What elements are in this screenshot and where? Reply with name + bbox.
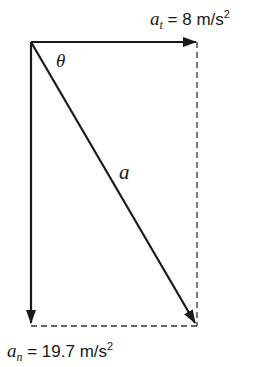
resultant-label: a: [119, 160, 130, 185]
normal-label: an = 19.7 m/s2: [7, 340, 113, 365]
vector-diagram: [0, 0, 261, 367]
theta-label: θ: [56, 50, 65, 72]
tangential-label: at = 8 m/s2: [150, 8, 230, 33]
resultant-vector-arrow: [31, 42, 195, 323]
